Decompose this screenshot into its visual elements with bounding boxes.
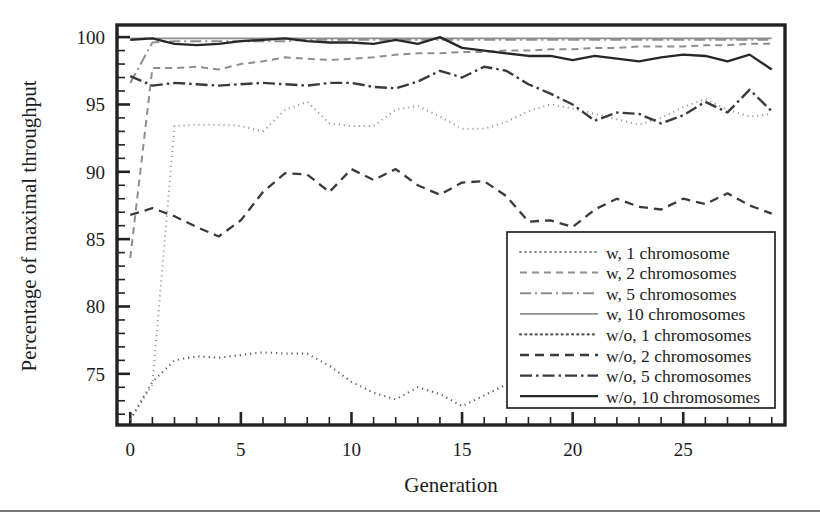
x-tick-label: 10	[342, 439, 361, 460]
legend-entry-label: w, 1 chromosome	[606, 243, 730, 263]
y-axis-title: Percentage of maximal throughput	[17, 80, 41, 371]
x-tick-label: 20	[563, 439, 582, 460]
x-tick-label: 5	[236, 439, 246, 460]
legend-entry-label: w, 2 chromosomes	[606, 263, 737, 283]
y-tick-label: 100	[77, 27, 106, 48]
y-tick-label: 75	[86, 364, 105, 385]
legend-entry-label: w, 5 chromosomes	[606, 284, 737, 304]
y-tick-label: 80	[86, 296, 105, 317]
x-axis-title: Generation	[404, 473, 498, 497]
legend-entry-label: w, 10 chromosomes	[606, 304, 746, 324]
throughput-generation-line-chart: Percentage of maximal throughput 7580859…	[0, 0, 820, 517]
x-tick-label: 25	[674, 439, 693, 460]
legend-entry-label: w/o, 1 chromosomes	[606, 325, 752, 345]
y-tick-label: 90	[86, 162, 105, 183]
legend-entry-label: w/o, 2 chromosomes	[606, 346, 752, 366]
legend-entry-label: w/o, 5 chromosomes	[606, 366, 752, 386]
y-tick-label: 95	[86, 94, 105, 115]
legend-entry-label: w/o, 10 chromosomes	[606, 387, 760, 407]
x-tick-label: 15	[453, 439, 472, 460]
x-tick-label: 0	[126, 439, 136, 460]
y-tick-label: 85	[86, 229, 105, 250]
